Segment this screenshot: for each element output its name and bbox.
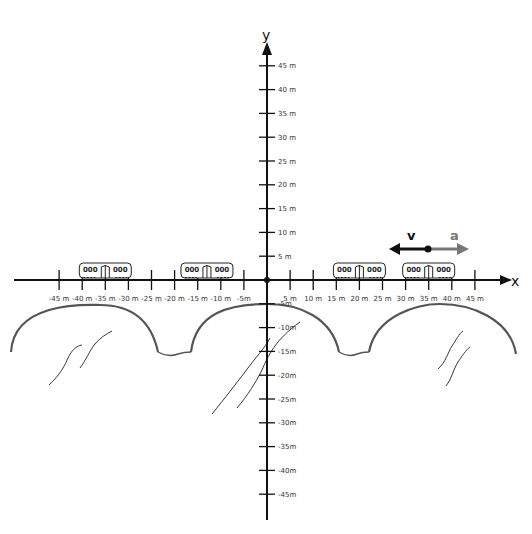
x-tick-label: -35 m — [95, 295, 116, 303]
y-axis-label: y — [262, 27, 270, 43]
y-tick-label: -30m — [278, 419, 296, 427]
svg-text:000: 000 — [215, 266, 230, 274]
y-tick-label: 20 m — [278, 181, 296, 189]
hill-left — [11, 305, 158, 352]
acceleration-label: a — [450, 228, 459, 243]
y-tick-label: -5m — [278, 300, 292, 308]
train-car: 000000 — [181, 263, 233, 278]
y-tick-label: -40m — [278, 467, 296, 475]
x-tick-label: 25 m — [374, 295, 392, 303]
x-tick-label: -20 m — [164, 295, 185, 303]
x-tick-label: -30 m — [118, 295, 139, 303]
motion-vectors: v a — [389, 228, 469, 255]
x-tick-label: -15 m — [187, 295, 208, 303]
y-tick-label: -45m — [278, 491, 296, 499]
acceleration-arrow-icon — [457, 243, 469, 255]
x-tick-label: 15 m — [327, 295, 345, 303]
x-tick-label: -5m — [237, 295, 251, 303]
x-tick-label: 20 m — [350, 295, 368, 303]
y-tick-label: 15 m — [278, 205, 296, 213]
y-tick-label: 30 m — [278, 134, 296, 142]
motion-diagram: x y -45 m-40 m-35 m-30 m-25 m-20 m-15 m-… — [0, 0, 532, 534]
y-tick-label: -25m — [278, 396, 296, 404]
x-tick-label: -25 m — [141, 295, 162, 303]
y-tick-label: 25 m — [278, 158, 296, 166]
velocity-arrow-icon — [389, 243, 400, 255]
svg-text:000: 000 — [337, 266, 352, 274]
x-tick-label: -40 m — [72, 295, 93, 303]
svg-text:000: 000 — [83, 266, 98, 274]
rock-lines — [49, 322, 470, 414]
y-tick-label: -35m — [278, 443, 296, 451]
hill-right — [369, 304, 516, 354]
train-car: 000000 — [333, 263, 385, 278]
y-tick-label: 40 m — [278, 86, 296, 94]
x-tick-label: 35 m — [420, 295, 438, 303]
train-car: 000000 — [79, 263, 131, 278]
y-tick-label: -10m — [278, 324, 296, 332]
x-tick-label: 40 m — [443, 295, 461, 303]
train-car: 000000 — [403, 263, 455, 278]
svg-text:000: 000 — [185, 266, 200, 274]
svg-text:000: 000 — [406, 266, 421, 274]
origin-point — [264, 277, 270, 283]
x-tick-label: 45 m — [466, 295, 484, 303]
y-tick-label: 10 m — [278, 229, 296, 237]
x-tick-label: 10 m — [304, 295, 322, 303]
svg-text:000: 000 — [436, 266, 451, 274]
svg-text:000: 000 — [367, 266, 382, 274]
svg-text:000: 000 — [113, 266, 128, 274]
x-axis-label: x — [511, 273, 519, 289]
x-tick-label: -45 m — [49, 295, 70, 303]
y-tick-label: 35 m — [278, 110, 296, 118]
y-tick-label: -15m — [278, 348, 296, 356]
y-tick-label: 45 m — [278, 62, 296, 70]
velocity-label: v — [407, 228, 416, 243]
y-tick-label: 5 m — [278, 253, 292, 261]
y-tick-label: -20m — [278, 372, 296, 380]
x-tick-label: -10 m — [211, 295, 232, 303]
x-tick-label: 30 m — [397, 295, 415, 303]
